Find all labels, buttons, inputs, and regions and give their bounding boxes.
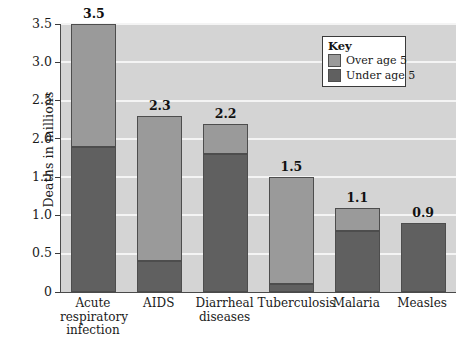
y-axis-tick-label: 1.0: [32, 209, 55, 222]
bar-segment-over-age-5: [335, 208, 380, 231]
x-axis-label: Measles: [389, 297, 455, 311]
y-axis-tick-label: 0.5: [32, 247, 55, 260]
y-axis-tick-label: 3.5: [32, 18, 55, 31]
y-axis-tick-label: 2.0: [32, 133, 55, 146]
legend-item-over-age-5: Over age 5: [328, 54, 400, 67]
bar-value-label: 2.3: [149, 98, 171, 113]
legend-swatch-under-age-5: [328, 69, 341, 82]
x-axis-label: Tuberculosis: [258, 297, 324, 311]
x-axis-label: Malaria: [323, 297, 389, 311]
legend-item-under-age-5: Under age 5: [328, 69, 400, 82]
bar-group: 2.2: [203, 124, 248, 292]
x-axis-label-line: Malaria: [323, 297, 389, 311]
x-axis-labels: AcuterespiratoryinfectionAIDSDiarrhealdi…: [60, 297, 455, 347]
bar-chart: Deaths in millions 00.51.01.52.02.53.03.…: [0, 0, 476, 348]
x-axis-label-line: Measles: [389, 297, 455, 311]
y-axis-ticks: 00.51.01.52.02.53.03.5: [0, 0, 60, 348]
x-axis-label: Diarrhealdiseases: [192, 297, 258, 324]
bar-value-label: 3.5: [83, 6, 105, 21]
y-axis-tick-label: 0: [44, 286, 55, 299]
bar-segment-over-age-5: [71, 24, 116, 147]
y-axis-tick-label: 2.5: [32, 94, 55, 107]
y-axis-tick-label: 1.5: [32, 171, 55, 184]
bar-segment-over-age-5: [137, 116, 182, 261]
x-axis-label-line: Acute: [60, 297, 126, 311]
bar-group: 0.9: [401, 223, 446, 292]
bar-segment-under-age-5: [71, 147, 116, 292]
legend-label-under-age-5: Under age 5: [346, 70, 415, 82]
legend: Key Over age 5 Under age 5: [322, 36, 406, 87]
bar-segment-under-age-5: [335, 231, 380, 292]
y-axis-tick-label: 3.0: [32, 56, 55, 69]
legend-title: Key: [328, 40, 400, 52]
bar-value-label: 1.1: [346, 190, 368, 205]
bar-value-label: 2.2: [215, 106, 237, 121]
x-axis-label: Acuterespiratoryinfection: [60, 297, 126, 338]
x-axis-label: AIDS: [126, 297, 192, 311]
bar-group: 2.3: [137, 116, 182, 292]
bar-group: 1.5: [269, 177, 314, 292]
bar-group: 1.1: [335, 208, 380, 292]
x-axis-label-line: diseases: [192, 311, 258, 325]
bar-segment-under-age-5: [137, 261, 182, 292]
x-axis-label-line: AIDS: [126, 297, 192, 311]
x-axis-label-line: Diarrheal: [192, 297, 258, 311]
bar-segment-under-age-5: [269, 284, 314, 292]
bar-segment-over-age-5: [203, 124, 248, 155]
bar-segment-under-age-5: [203, 154, 248, 292]
legend-swatch-over-age-5: [328, 54, 341, 67]
bar-group: 3.5: [71, 24, 116, 292]
bar-segment-under-age-5: [401, 223, 446, 292]
legend-label-over-age-5: Over age 5: [346, 55, 407, 67]
bar-value-label: 0.9: [412, 205, 434, 220]
x-axis-label-line: Tuberculosis: [258, 297, 324, 311]
x-axis-label-line: respiratory: [60, 311, 126, 325]
bar-segment-over-age-5: [269, 177, 314, 284]
x-axis-label-line: infection: [60, 324, 126, 338]
bar-value-label: 1.5: [281, 159, 303, 174]
